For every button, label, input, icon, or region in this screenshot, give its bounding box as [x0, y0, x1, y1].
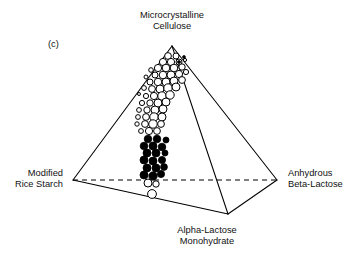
- data-point: [144, 107, 150, 113]
- data-point: [172, 83, 180, 91]
- vertex-label-left: Modified Rice Starch: [15, 168, 63, 189]
- data-point: [178, 61, 181, 64]
- data-point: [183, 58, 186, 61]
- data-point: [153, 135, 161, 143]
- tetrahedron-diagram: Microcrystalline Cellulose Modified Rice…: [0, 0, 355, 255]
- data-point: [147, 100, 153, 106]
- data-point: [183, 69, 188, 74]
- vertex-label-right: Anhydrous Beta-Lactose: [288, 168, 343, 189]
- data-point: [139, 129, 144, 134]
- data-point: [163, 137, 169, 143]
- data-point: [157, 170, 164, 177]
- data-point: [179, 64, 185, 70]
- edge-top-right: [172, 46, 277, 180]
- data-point: [154, 128, 161, 135]
- panel-letter: (c): [48, 39, 59, 49]
- vertex-label-front-line2: Monohydrate: [180, 236, 234, 246]
- vertex-label-right-line1: Anhydrous: [288, 168, 333, 178]
- data-point: [139, 100, 144, 105]
- data-point: [135, 122, 139, 126]
- vertex-label-front: Alpha-Lactose Monohydrate: [177, 225, 236, 246]
- data-point: [140, 171, 148, 179]
- data-point: [162, 150, 168, 156]
- data-point: [173, 53, 179, 59]
- data-point: [183, 56, 186, 59]
- data-point: [142, 121, 149, 128]
- figure-panel: Microcrystalline Cellulose Modified Rice…: [0, 0, 355, 255]
- data-point: [158, 156, 165, 163]
- data-point: [142, 86, 147, 91]
- data-point: [149, 172, 157, 180]
- data-point: [144, 135, 152, 143]
- vertex-label-top: Microcrystalline Cellulose: [140, 10, 204, 31]
- data-point: [152, 72, 158, 78]
- data-point: [149, 68, 154, 73]
- data-point: [143, 114, 150, 121]
- vertex-label-front-line1: Alpha-Lactose: [177, 225, 236, 235]
- edge-front-right: [228, 180, 277, 214]
- data-point: [161, 164, 168, 171]
- data-point: [138, 93, 141, 96]
- data-point: [144, 179, 152, 187]
- vertex-label-right-line2: Beta-Lactose: [288, 179, 343, 189]
- vertex-label-top-line1: Microcrystalline: [140, 10, 204, 20]
- data-point: [150, 92, 157, 99]
- data-point: [179, 77, 186, 84]
- data-point: [149, 120, 157, 128]
- data-point: [147, 79, 153, 85]
- data-point: [152, 149, 160, 157]
- data-point: [143, 93, 148, 98]
- data-point: [158, 113, 166, 121]
- data-point: [153, 181, 159, 187]
- vertex-label-left-line2: Rice Starch: [15, 179, 63, 189]
- data-point: [154, 64, 161, 71]
- data-point: [144, 75, 148, 79]
- data-point: [148, 190, 157, 199]
- vertex-label-left-line1: Modified: [28, 168, 63, 178]
- vertex-label-top-line2: Cellulose: [153, 21, 191, 31]
- data-point: [145, 127, 152, 134]
- data-point: [162, 64, 170, 72]
- data-point: [140, 156, 148, 164]
- data-point: [136, 115, 141, 120]
- data-point: [159, 105, 167, 113]
- data-point: [158, 121, 165, 128]
- data-point: [149, 86, 156, 93]
- data-point: [137, 108, 142, 113]
